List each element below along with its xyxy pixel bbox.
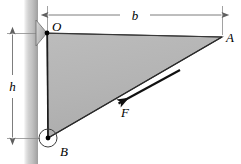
dim-h-label: h [9, 79, 16, 94]
joint-dot-o [45, 31, 50, 36]
force-label-f: F [120, 105, 130, 120]
bracket-figure: b h [0, 0, 241, 164]
point-label-a: A [225, 30, 234, 45]
bracket-body [47, 33, 222, 138]
point-label-o: O [52, 19, 62, 34]
bracket-vertical-member [47, 33, 48, 138]
joint-dot-b [46, 136, 51, 141]
dimension-b: b [48, 6, 223, 35]
dim-b-label: b [132, 8, 139, 23]
figure-canvas: b h [0, 0, 241, 164]
point-label-b: B [60, 144, 68, 159]
triangle-bracket [47, 33, 222, 138]
